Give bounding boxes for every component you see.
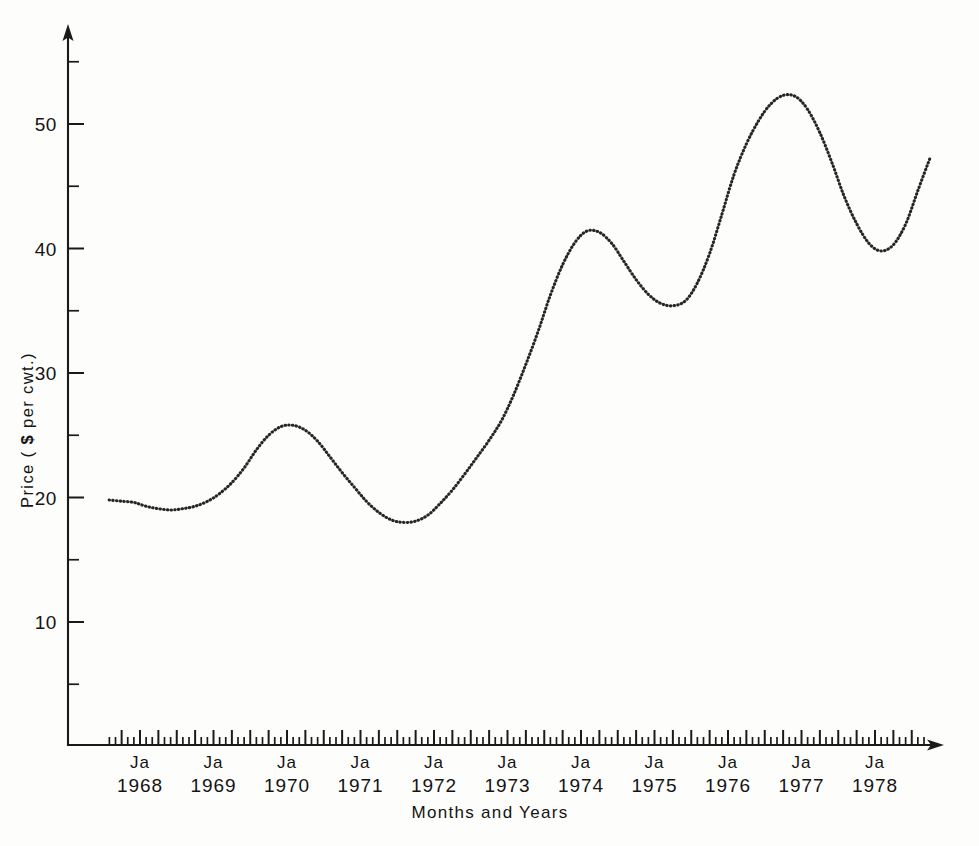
x-tick-month-label: Ja bbox=[130, 753, 150, 772]
x-tick-month-label: Ja bbox=[571, 753, 591, 772]
x-tick-year-label: 1971 bbox=[338, 775, 384, 796]
svg-text:Price ( $ per cwt.): Price ( $ per cwt.) bbox=[18, 352, 36, 508]
x-tick-month-label: Ja bbox=[645, 753, 665, 772]
x-tick-year-label: 1974 bbox=[558, 775, 604, 796]
y-tick-label: 50 bbox=[35, 114, 57, 135]
x-axis-title: Months and Years bbox=[412, 803, 569, 822]
x-tick-month-label: Ja bbox=[865, 753, 885, 772]
x-tick-year-label: 1968 bbox=[117, 775, 163, 796]
chart-background bbox=[0, 0, 979, 846]
x-tick-month-label: Ja bbox=[498, 753, 518, 772]
y-tick-label: 20 bbox=[35, 488, 57, 509]
y-axis-title: Price ( $ per cwt.) bbox=[18, 352, 36, 508]
x-tick-month-label: Ja bbox=[277, 753, 297, 772]
y-tick-label: 30 bbox=[35, 363, 57, 384]
y-tick-label: 40 bbox=[35, 239, 57, 260]
x-tick-year-label: 1972 bbox=[411, 775, 457, 796]
x-tick-month-label: Ja bbox=[424, 753, 444, 772]
x-tick-year-label: 1975 bbox=[632, 775, 678, 796]
x-tick-month-label: Ja bbox=[792, 753, 812, 772]
x-tick-year-label: 1969 bbox=[191, 775, 237, 796]
x-tick-month-label: Ja bbox=[718, 753, 738, 772]
x-tick-year-label: 1973 bbox=[485, 775, 531, 796]
chart-figure: 1020304050 Ja1968Ja1969Ja1970Ja1971Ja197… bbox=[0, 0, 979, 846]
x-tick-year-label: 1977 bbox=[779, 775, 825, 796]
x-tick-month-label: Ja bbox=[204, 753, 224, 772]
x-tick-year-label: 1970 bbox=[264, 775, 310, 796]
chart-canvas: 1020304050 Ja1968Ja1969Ja1970Ja1971Ja197… bbox=[0, 0, 979, 846]
y-tick-label: 10 bbox=[35, 612, 57, 633]
x-tick-year-label: 1976 bbox=[705, 775, 751, 796]
x-tick-year-label: 1978 bbox=[852, 775, 898, 796]
x-tick-month-label: Ja bbox=[351, 753, 371, 772]
